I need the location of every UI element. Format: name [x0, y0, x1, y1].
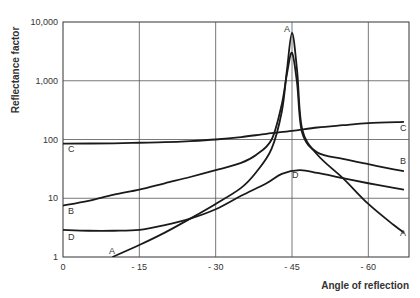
x-tick-label: - 30	[208, 262, 224, 272]
x-tick-label: - 45	[284, 262, 300, 272]
y-tick-label: 10	[48, 193, 58, 203]
series-line-C	[63, 122, 404, 144]
series-line-D	[63, 170, 404, 231]
series-label-D: D	[292, 170, 299, 180]
series-lines	[63, 33, 404, 257]
series-label-C: C	[68, 144, 75, 154]
series-label-B: B	[68, 206, 74, 216]
x-axis-title: Angle of reflection	[321, 280, 409, 291]
series-line-A	[112, 33, 404, 257]
x-tick-label: - 60	[361, 262, 377, 272]
gridlines	[63, 22, 409, 257]
series-label-A: A	[284, 24, 290, 34]
series-labels: AAABBCCDD	[68, 24, 407, 256]
series-label-C: C	[400, 123, 407, 133]
reflectance-chart: AAABBCCDD 0- 15- 30- 45- 60 1101001,0001…	[0, 0, 420, 298]
x-axis-ticks: 0- 15- 30- 45- 60	[60, 262, 376, 272]
series-label-B: B	[400, 156, 406, 166]
y-axis-title: Reflectance factor	[10, 27, 21, 114]
series-label-A: A	[109, 246, 115, 256]
series-label-D: D	[68, 232, 75, 242]
series-line-B	[63, 53, 404, 206]
series-label-A: A	[400, 228, 406, 238]
x-tick-label: 0	[60, 262, 65, 272]
y-tick-label: 1	[53, 252, 58, 262]
y-tick-label: 100	[43, 135, 58, 145]
y-tick-label: 10,000	[30, 17, 58, 27]
x-tick-label: - 15	[132, 262, 148, 272]
y-axis-ticks: 1101001,00010,000	[30, 17, 58, 262]
y-tick-label: 1,000	[35, 76, 58, 86]
